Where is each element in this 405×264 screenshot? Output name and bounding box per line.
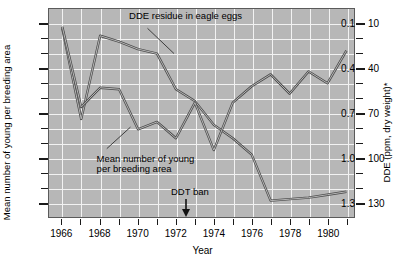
x-axis-label: 1970 [126, 228, 148, 239]
y-tick-right-minor [356, 188, 363, 189]
y-axis-left-label: 0.4 [315, 63, 355, 74]
annotation-ddt-ban: DDT ban [171, 186, 209, 197]
x-tick [347, 219, 348, 225]
y-axis-left-label: 0.1 [315, 18, 355, 29]
y-tick-right-minor [356, 128, 363, 129]
y-axis-right-label: 10 [368, 18, 405, 29]
x-tick [195, 219, 196, 225]
x-tick [100, 219, 101, 225]
y-tick-left-minor [41, 173, 48, 174]
y-tick-left-minor [41, 38, 48, 39]
y-axis-right-label: 100 [368, 153, 405, 164]
y-tick-right-minor [356, 53, 363, 54]
x-tick [138, 219, 139, 225]
y-axis-left-label: 1.0 [315, 153, 355, 164]
x-tick [61, 219, 62, 225]
y-tick-left-minor [41, 98, 48, 99]
x-axis-label: 1974 [203, 228, 225, 239]
x-tick [328, 219, 329, 225]
y-axis-right-ticks [356, 8, 368, 218]
x-axis-label: 1972 [165, 228, 187, 239]
y-axis-left-label: 1.3 [315, 198, 355, 209]
y-tick-right-minor [356, 143, 363, 144]
ddt-ban-arrow-icon [179, 199, 193, 217]
x-axis-label: 1966 [50, 228, 72, 239]
chart-figure: Mean number of young per breeding area D… [0, 0, 405, 264]
x-axis-label: 1980 [317, 228, 339, 239]
annotation-mean-young-line2: per breeding area [97, 163, 172, 174]
y-axis-right-title: DDE (ppm, dry weight)* [378, 0, 396, 264]
y-tick-right-major [356, 68, 365, 70]
x-tick [252, 219, 253, 225]
y-tick-right-major [356, 158, 365, 160]
y-tick-left-major [39, 68, 48, 70]
x-tick [157, 219, 158, 225]
leader-line [148, 28, 175, 53]
y-tick-left-major [39, 113, 48, 115]
y-axis-left-label: 0.7 [315, 108, 355, 119]
leader-line [107, 127, 131, 149]
y-tick-left-major [39, 203, 48, 205]
y-tick-right-major [356, 23, 365, 25]
x-tick [290, 219, 291, 225]
y-axis-left-title: Mean number of young per breeding area [0, 0, 16, 264]
x-tick [176, 219, 177, 225]
y-tick-right-major [356, 113, 365, 115]
y-tick-left-minor [41, 53, 48, 54]
x-axis-label: 1968 [88, 228, 110, 239]
y-axis-right-label: 70 [368, 108, 405, 119]
y-tick-left-major [39, 158, 48, 160]
y-tick-left-minor [41, 128, 48, 129]
annotation-dde-residue: DDE residue in eagle eggs [129, 10, 242, 21]
x-tick [80, 219, 81, 225]
y-axis-right-label: 40 [368, 63, 405, 74]
x-axis-label: 1978 [279, 228, 301, 239]
x-axis-title: Year [0, 245, 405, 256]
y-tick-left-minor [41, 83, 48, 84]
y-tick-right-minor [356, 173, 363, 174]
y-tick-right-major [356, 203, 365, 205]
x-tick [214, 219, 215, 225]
y-tick-left-minor [41, 143, 48, 144]
y-tick-right-minor [356, 98, 363, 99]
y-tick-right-minor [356, 38, 363, 39]
y-axis-left-ticks [36, 8, 48, 218]
x-axis-label: 1976 [241, 228, 263, 239]
y-tick-left-major [39, 23, 48, 25]
x-tick [233, 219, 234, 225]
x-tick [271, 219, 272, 225]
y-axis-right-label: 130 [368, 198, 405, 209]
y-tick-right-minor [356, 83, 363, 84]
x-tick [119, 219, 120, 225]
annotation-mean-young-line1: Mean number of young [97, 153, 195, 164]
x-tick [309, 219, 310, 225]
y-tick-left-minor [41, 188, 48, 189]
